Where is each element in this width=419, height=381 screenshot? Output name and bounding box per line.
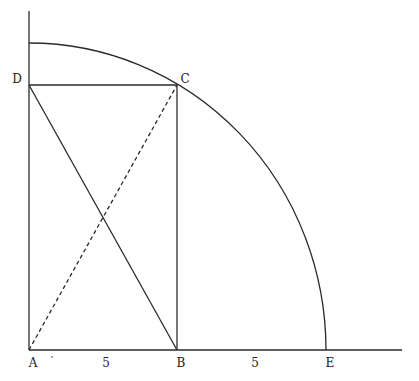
point-label-a: A bbox=[29, 357, 38, 369]
point-label-e: E bbox=[326, 357, 335, 369]
segment-length-label-be: 5 bbox=[251, 357, 259, 369]
point-label-c: C bbox=[180, 73, 189, 85]
point-label-d: D bbox=[12, 73, 22, 85]
segment-length-label-ab: 5 bbox=[102, 357, 110, 369]
geometry-diagram: A B E C D 5 5 bbox=[0, 0, 419, 381]
point-label-b: B bbox=[177, 357, 186, 369]
stray-dot-mark bbox=[51, 356, 53, 358]
diagram-drawing bbox=[0, 0, 419, 381]
